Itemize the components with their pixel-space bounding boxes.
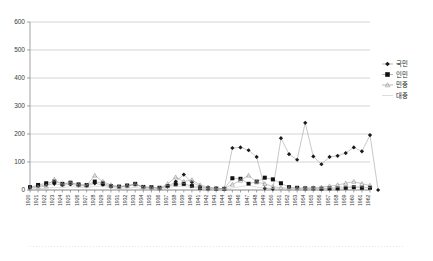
x-tick-label: 1927 xyxy=(82,194,88,206)
x-tick-label: 1950 xyxy=(268,194,274,206)
x-tick-label: 1936 xyxy=(155,194,161,206)
data-point xyxy=(303,121,307,125)
x-tick-label: 1941 xyxy=(195,194,201,206)
x-tick-label: 1953 xyxy=(292,194,298,206)
x-tick-label: 1942 xyxy=(203,194,209,206)
data-point xyxy=(263,176,267,180)
x-tick-label: 1956 xyxy=(316,194,322,206)
data-point xyxy=(230,146,234,150)
chart-canvas: 0100200300400500600192019211922192319241… xyxy=(0,0,433,261)
x-tick-label: 1935 xyxy=(146,194,152,206)
series-line-0 xyxy=(30,123,378,190)
data-point xyxy=(336,154,340,158)
data-point xyxy=(93,180,97,184)
x-tick-label: 1962 xyxy=(365,194,371,206)
y-tick-label: 200 xyxy=(14,130,25,137)
data-point xyxy=(376,188,380,192)
y-tick-label: 100 xyxy=(14,158,25,165)
x-tick-label: 1922 xyxy=(41,194,47,206)
data-point xyxy=(238,145,242,149)
x-tick-label: 1949 xyxy=(260,194,266,206)
y-tick-label: 0 xyxy=(21,186,25,193)
legend-label-1: 인민 xyxy=(396,70,408,79)
x-tick-label: 1923 xyxy=(49,194,55,206)
legend-label-2: 민중 xyxy=(396,80,408,89)
x-tick-label: 1951 xyxy=(276,194,282,206)
x-tick-label: 1943 xyxy=(211,194,217,206)
data-point xyxy=(230,176,234,180)
legend-label-0: 국민 xyxy=(396,59,408,68)
y-tick-label: 400 xyxy=(14,74,25,81)
x-tick-label: 1957 xyxy=(325,194,331,206)
data-point xyxy=(174,182,178,186)
x-tick-label: 1961 xyxy=(357,194,363,206)
x-tick-label: 1933 xyxy=(130,194,136,206)
x-tick-label: 1955 xyxy=(308,194,314,206)
data-point xyxy=(287,152,291,156)
x-tick-label: 1930 xyxy=(106,194,112,206)
x-tick-label: 1926 xyxy=(74,194,80,206)
x-tick-label: 1925 xyxy=(65,194,71,206)
data-point xyxy=(368,133,372,137)
x-tick-label: 1947 xyxy=(244,194,250,206)
data-point xyxy=(344,151,348,155)
x-tick-label: 1958 xyxy=(333,194,339,206)
x-tick-label: 1948 xyxy=(252,194,258,206)
x-tick-label: 1960 xyxy=(349,194,355,206)
data-point xyxy=(352,185,356,189)
x-tick-label: 1952 xyxy=(284,194,290,206)
data-point xyxy=(279,136,283,140)
data-point xyxy=(360,149,364,153)
x-tick-label: 1931 xyxy=(114,194,120,206)
x-tick-label: 1939 xyxy=(179,194,185,206)
x-tick-label: 1924 xyxy=(57,194,63,206)
data-point xyxy=(295,158,299,162)
data-point xyxy=(360,186,364,190)
legend-label-3: 대중 xyxy=(396,92,408,100)
data-point xyxy=(352,145,356,149)
x-tick-label: 1946 xyxy=(235,194,241,206)
data-point xyxy=(271,177,275,181)
x-tick-label: 1921 xyxy=(33,194,39,206)
x-tick-label: 1920 xyxy=(25,194,31,206)
x-tick-label: 1944 xyxy=(219,194,225,206)
chart-figure: 0100200300400500600192019211922192319241… xyxy=(0,0,433,261)
x-tick-label: 1928 xyxy=(90,194,96,206)
legend-marker-0 xyxy=(385,62,390,67)
y-tick-label: 600 xyxy=(14,18,25,25)
footer-rule xyxy=(30,246,405,247)
x-tick-label: 1929 xyxy=(98,194,104,206)
x-tick-label: 1938 xyxy=(171,194,177,206)
data-point xyxy=(279,181,283,185)
x-tick-label: 1932 xyxy=(122,194,128,206)
x-tick-label: 1945 xyxy=(227,194,233,206)
x-tick-label: 1959 xyxy=(341,194,347,206)
x-tick-label: 1940 xyxy=(187,194,193,206)
x-tick-label: 1954 xyxy=(300,194,306,206)
y-tick-label: 300 xyxy=(14,102,25,109)
x-tick-label: 1937 xyxy=(163,194,169,206)
y-tick-label: 500 xyxy=(14,46,25,53)
x-tick-label: 1934 xyxy=(138,194,144,206)
legend-marker-1 xyxy=(385,72,390,77)
